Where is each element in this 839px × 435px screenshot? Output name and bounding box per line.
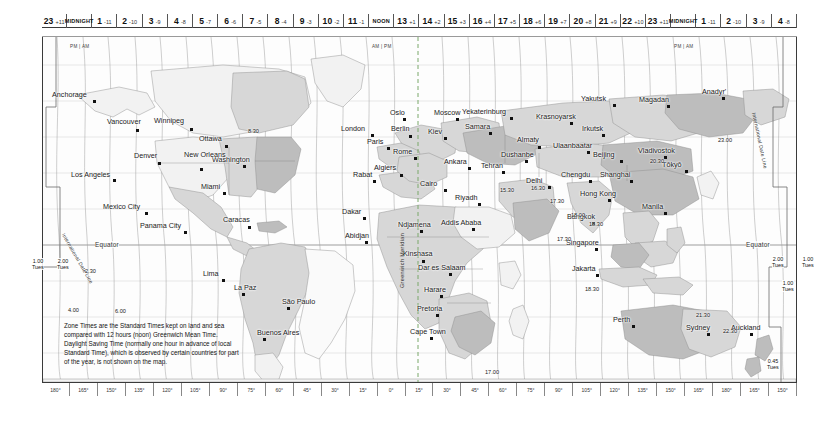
city-marker[interactable] — [489, 132, 492, 135]
city-label-dar-es-salaam[interactable]: Dar es Salaam — [418, 264, 466, 272]
city-marker[interactable] — [225, 145, 228, 148]
hour-cell-15[interactable]: 14+2 — [420, 14, 445, 28]
city-label-abidjan[interactable]: Abidjan — [345, 232, 369, 240]
city-marker[interactable] — [468, 167, 471, 170]
city-marker[interactable] — [222, 279, 225, 282]
hour-cell-28[interactable]: 3-9 — [747, 14, 772, 28]
city-marker[interactable] — [664, 156, 667, 159]
city-marker[interactable] — [472, 228, 475, 231]
hour-cell-4[interactable]: 3-9 — [143, 14, 168, 28]
city-marker[interactable] — [93, 100, 96, 103]
hour-cell-6[interactable]: 5-7 — [193, 14, 218, 28]
city-marker[interactable] — [685, 170, 688, 173]
city-label-jakarta[interactable]: Jakarta — [572, 265, 596, 273]
city-marker[interactable] — [440, 295, 443, 298]
city-marker[interactable] — [608, 199, 611, 202]
city-marker[interactable] — [548, 186, 551, 189]
city-label-kinshasa[interactable]: Kinshasa — [403, 250, 433, 258]
city-marker[interactable] — [242, 293, 245, 296]
city-label-anchorage[interactable]: Anchorage — [52, 91, 87, 99]
city-label-harare[interactable]: Harare — [424, 286, 446, 294]
city-marker[interactable] — [664, 212, 667, 215]
hour-cell-11[interactable]: 10-2 — [319, 14, 344, 28]
hour-cell-21[interactable]: 20+8 — [571, 14, 596, 28]
hour-cell-12[interactable]: 11-1 — [344, 14, 369, 28]
city-marker[interactable] — [667, 105, 670, 108]
city-label-shanghai[interactable]: Shanghai — [600, 171, 630, 179]
city-label-dakar[interactable]: Dakar — [342, 208, 361, 216]
city-marker[interactable] — [456, 118, 459, 121]
city-label-new-orleans[interactable]: New Orleans — [184, 151, 226, 159]
hour-cell-1[interactable]: MIDNIGHT — [67, 14, 92, 28]
city-label-chengdu[interactable]: Chengdu — [561, 171, 590, 179]
city-marker[interactable] — [113, 179, 116, 182]
city-label-algiers[interactable]: Algiers — [374, 164, 396, 172]
city-label-rabat[interactable]: Rabat — [353, 171, 372, 179]
city-marker[interactable] — [414, 157, 417, 160]
city-label-addis-ababa[interactable]: Addis Ababa — [441, 219, 481, 227]
city-marker[interactable] — [184, 231, 187, 234]
city-marker[interactable] — [287, 307, 290, 310]
city-label-irkutsk[interactable]: Irkutsk — [582, 125, 603, 133]
city-marker[interactable] — [538, 146, 541, 149]
city-marker[interactable] — [430, 337, 433, 340]
city-label-perth[interactable]: Perth — [613, 316, 630, 324]
hour-cell-2[interactable]: 1-11 — [92, 14, 117, 28]
city-label-riyadh[interactable]: Riyadh — [455, 194, 477, 202]
city-label-moscow[interactable]: Moscow — [434, 109, 460, 117]
city-label-caracas[interactable]: Caracas — [223, 216, 250, 224]
city-label-oslo[interactable]: Oslo — [390, 109, 405, 117]
city-label-anadyr-[interactable]: Anadyr' — [702, 88, 726, 96]
city-marker[interactable] — [420, 230, 423, 233]
city-marker[interactable] — [632, 325, 635, 328]
city-marker[interactable] — [248, 226, 251, 229]
city-marker[interactable] — [707, 333, 710, 336]
hour-cell-18[interactable]: 17+5 — [495, 14, 520, 28]
city-label-kiev[interactable]: Kiev — [428, 128, 442, 136]
city-marker[interactable] — [365, 241, 368, 244]
city-marker[interactable] — [200, 168, 203, 171]
city-marker[interactable] — [750, 333, 753, 336]
city-marker[interactable] — [596, 274, 599, 277]
hour-cell-26[interactable]: 1-11 — [696, 14, 721, 28]
city-label-delhi[interactable]: Delhi — [526, 177, 542, 185]
hour-cell-5[interactable]: 4-8 — [168, 14, 193, 28]
hour-cell-19[interactable]: 18+6 — [520, 14, 545, 28]
hour-cell-7[interactable]: 6-6 — [218, 14, 243, 28]
city-marker[interactable] — [630, 180, 633, 183]
hour-cell-17[interactable]: 16+4 — [470, 14, 495, 28]
city-label-ottawa[interactable]: Ottawa — [199, 135, 222, 143]
city-marker[interactable] — [510, 117, 513, 120]
city-label-samara[interactable]: Samara — [465, 123, 490, 131]
hour-cell-20[interactable]: 19+7 — [545, 14, 570, 28]
city-label-cairo[interactable]: Cairo — [420, 180, 437, 188]
city-label-cape-town[interactable]: Cape Town — [410, 328, 446, 336]
city-label-s-o-paulo[interactable]: São Paulo — [282, 298, 315, 306]
city-marker[interactable] — [223, 192, 226, 195]
city-label-beijing[interactable]: Beijing — [593, 151, 615, 159]
city-marker[interactable] — [387, 147, 390, 150]
city-label-almaty[interactable]: Almaty — [517, 136, 539, 144]
city-label-panama-city[interactable]: Panama City — [140, 222, 181, 230]
city-label-hong-kong[interactable]: Hong Kong — [580, 190, 616, 198]
city-marker[interactable] — [449, 273, 452, 276]
city-label-ndjamena[interactable]: Ndjamena — [398, 221, 431, 229]
hour-cell-23[interactable]: 22+10 — [621, 14, 646, 28]
city-label-miami[interactable]: Miami — [201, 183, 220, 191]
city-label-magadan[interactable]: Magadan — [639, 96, 669, 104]
city-label-buenos-aires[interactable]: Buenos Aires — [257, 329, 299, 337]
city-label-ulaanbaatar[interactable]: Ulaanbaatar — [553, 142, 592, 150]
hour-cell-9[interactable]: 8-4 — [269, 14, 294, 28]
city-marker[interactable] — [373, 180, 376, 183]
city-marker[interactable] — [403, 118, 406, 121]
city-label-vancouver[interactable]: Vancouver — [107, 118, 141, 126]
city-marker[interactable] — [602, 134, 605, 137]
city-label-t-ky-[interactable]: Tōkyō — [662, 161, 682, 169]
city-marker[interactable] — [436, 314, 439, 317]
city-marker[interactable] — [587, 151, 590, 154]
hour-cell-24[interactable]: 23+11 — [646, 14, 671, 28]
city-label-pretoria[interactable]: Pretoria — [417, 305, 442, 313]
city-marker[interactable] — [444, 137, 447, 140]
city-marker[interactable] — [525, 160, 528, 163]
city-label-lima[interactable]: Lima — [203, 270, 219, 278]
